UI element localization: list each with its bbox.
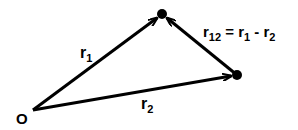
r12-equation-label: r12 = r1 - r2 [203, 23, 275, 43]
r1-label: r1 [80, 44, 92, 64]
point-2-dot [232, 70, 242, 80]
origin-label: O [16, 110, 28, 127]
vector-diagram: O r1 r2 r12 = r1 - r2 [0, 0, 298, 130]
r2-label: r2 [141, 95, 153, 115]
vector-r1-arrow [33, 18, 157, 110]
point-1-dot [157, 9, 167, 19]
vector-r2-arrow [33, 76, 231, 110]
